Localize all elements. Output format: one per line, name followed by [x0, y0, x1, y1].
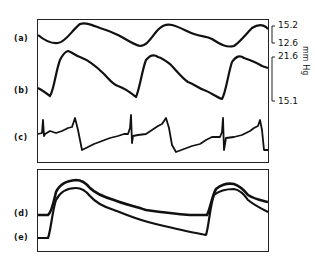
- trace-label-e: (e): [14, 233, 28, 242]
- top-panel-frame: [38, 20, 269, 163]
- scale-bracket-a: [272, 26, 275, 43]
- scale-b-min: 15.1: [278, 96, 298, 106]
- trace-e: [38, 188, 268, 238]
- waveform-figure: [0, 0, 315, 268]
- trace-label-c: (c): [14, 133, 28, 142]
- trace-label-d: (d): [14, 209, 29, 218]
- scale-b-max: 21.6: [278, 51, 298, 61]
- pressure-unit-label: mm Hg: [301, 46, 310, 75]
- scale-bracket-b: [272, 57, 275, 101]
- trace-a: [38, 23, 268, 46]
- trace-b: [38, 51, 268, 99]
- scale-a-min: 12.6: [278, 38, 298, 48]
- trace-c: [38, 115, 268, 152]
- scale-a-max: 15.2: [278, 20, 298, 30]
- trace-label-a: (a): [14, 34, 28, 43]
- trace-label-b: (b): [14, 86, 29, 95]
- trace-d: [38, 180, 268, 215]
